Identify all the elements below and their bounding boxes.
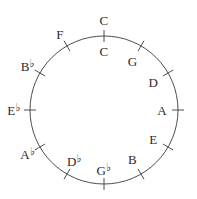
flat-symbol-icon: ♭: [106, 160, 111, 172]
note-letter: B: [21, 59, 30, 74]
tick-mark-ab: [35, 144, 45, 150]
tick-mark-f: [64, 41, 70, 51]
note-label-db: D♭: [67, 155, 82, 168]
circle-of-fifths-figure: CCGDAEBG♭D♭A♭E♭B♭F: [0, 0, 197, 199]
flat-symbol-icon: ♭: [15, 100, 20, 112]
note-letter: D: [67, 154, 77, 169]
note-letter: D: [149, 74, 159, 89]
note-label-bb: B♭: [21, 60, 35, 73]
note-letter: E: [149, 131, 157, 146]
flat-symbol-icon: ♭: [30, 144, 35, 156]
note-letter: C: [100, 44, 109, 59]
tick-mark-e: [163, 144, 173, 150]
note-letter: C: [100, 13, 109, 28]
note-label-g: G: [128, 54, 138, 67]
flat-symbol-icon: ♭: [30, 56, 35, 68]
note-letter: A: [157, 103, 167, 118]
note-label-eb: E♭: [7, 104, 21, 117]
note-label-c-outer: C: [100, 14, 109, 27]
note-label-d: D: [149, 75, 159, 88]
note-label-c-inner: C: [100, 45, 109, 58]
tick-mark-bb: [35, 70, 45, 76]
note-label-ab: A♭: [20, 148, 35, 161]
note-label-gb: G♭: [97, 164, 112, 177]
note-letter: B: [128, 152, 137, 167]
tick-mark-g: [138, 41, 144, 51]
tick-mark-d: [163, 70, 173, 76]
note-letter: F: [56, 26, 63, 41]
tick-mark-b: [138, 169, 144, 179]
note-label-e: E: [149, 132, 157, 145]
note-letter: A: [20, 147, 30, 162]
note-letter: E: [7, 103, 15, 118]
note-letter: G: [97, 163, 107, 178]
note-letter: G: [128, 53, 138, 68]
note-label-a: A: [157, 104, 167, 117]
note-label-f: F: [56, 27, 63, 40]
tick-mark-db: [64, 169, 70, 179]
flat-symbol-icon: ♭: [77, 151, 82, 163]
note-label-b: B: [128, 153, 137, 166]
